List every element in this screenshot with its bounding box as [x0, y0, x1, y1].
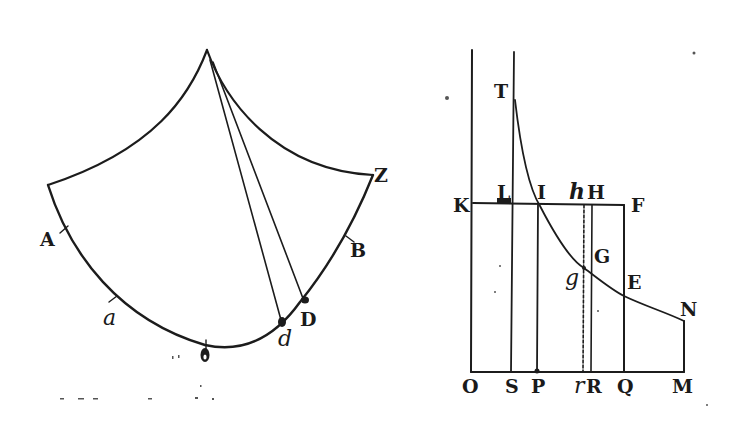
point-P — [535, 369, 540, 374]
label-G: G — [594, 245, 610, 267]
label-E: E — [627, 271, 641, 293]
speck — [60, 398, 64, 400]
bob-point-D — [301, 297, 309, 304]
label-S: S — [505, 375, 519, 397]
label-T: T — [494, 80, 508, 102]
label-F: F — [631, 194, 645, 216]
label-h: h — [569, 178, 585, 204]
tick-a — [109, 296, 117, 302]
label-L: L — [497, 181, 510, 203]
left-cheek-arc — [48, 50, 207, 185]
line-PI — [537, 204, 538, 372]
pendulum-thread-D — [213, 62, 304, 301]
label-A: A — [39, 228, 55, 250]
speck — [212, 398, 214, 400]
speck — [706, 404, 708, 406]
label-r: r — [574, 373, 586, 398]
pendulum-path-curve — [48, 175, 373, 347]
label-D: D — [300, 308, 316, 330]
speck — [172, 356, 174, 359]
label-N: N — [680, 298, 697, 320]
speck — [499, 265, 501, 267]
speck — [200, 385, 202, 387]
label-d: d — [278, 326, 292, 351]
speck — [93, 398, 98, 400]
label-P: P — [531, 375, 545, 397]
label-I: I — [537, 181, 546, 203]
point-g — [582, 266, 586, 270]
label-g: g — [565, 265, 579, 290]
speck — [693, 52, 696, 55]
label-B: B — [350, 239, 366, 261]
diagram-canvas: A a B Z D d — [0, 0, 741, 434]
label-H: H — [587, 181, 605, 203]
label-a: a — [103, 305, 116, 330]
right-figure: T K L I h H F G g E N O S P r R Q M — [445, 50, 708, 406]
label-R: R — [586, 375, 602, 397]
pendulum-thread-d — [210, 60, 281, 320]
speck — [178, 355, 180, 358]
label-O: O — [462, 375, 479, 397]
line-RH — [591, 205, 592, 372]
label-M: M — [672, 375, 693, 397]
speck — [494, 291, 496, 293]
lowest-point-o-inner — [203, 355, 206, 360]
line-rh-dashed — [583, 205, 584, 372]
left-figure: A a B Z D d — [39, 50, 388, 400]
speck — [597, 310, 599, 312]
curve-TN — [515, 100, 684, 321]
line-ST — [511, 52, 514, 372]
speck — [445, 96, 449, 100]
label-Q: Q — [617, 375, 634, 397]
line-KF — [473, 203, 624, 205]
speck — [78, 398, 84, 400]
label-K: K — [453, 194, 471, 216]
speck — [195, 397, 198, 399]
axis-vertical-O — [471, 50, 472, 372]
speck — [148, 398, 152, 400]
label-Z: Z — [374, 164, 388, 186]
